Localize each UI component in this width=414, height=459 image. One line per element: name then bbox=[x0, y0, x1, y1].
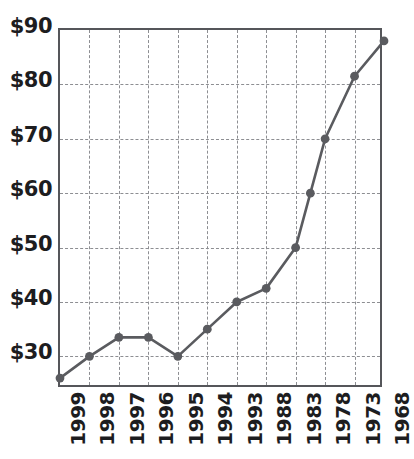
data-point bbox=[262, 284, 271, 293]
x-tick-label-1996: 1996 bbox=[154, 392, 178, 459]
x-tick-label-1983: 1983 bbox=[302, 392, 326, 459]
data-series bbox=[60, 30, 384, 389]
y-tick-label-90: $90 bbox=[0, 14, 52, 38]
y-tick-label-70: $70 bbox=[0, 123, 52, 147]
x-tick-label-1978: 1978 bbox=[331, 392, 355, 459]
y-tick-label-60: $60 bbox=[0, 177, 52, 201]
y-tick-label-50: $50 bbox=[0, 232, 52, 256]
data-point bbox=[173, 352, 182, 361]
x-tick-label-1994: 1994 bbox=[213, 392, 237, 459]
data-point bbox=[306, 189, 315, 198]
x-tick-label-1999: 1999 bbox=[66, 392, 90, 459]
y-tick-label-30: $30 bbox=[0, 340, 52, 364]
data-point bbox=[380, 36, 389, 45]
data-point bbox=[321, 134, 330, 143]
x-tick-label-1968: 1968 bbox=[390, 392, 414, 459]
data-point bbox=[291, 243, 300, 252]
x-tick-label-1973: 1973 bbox=[361, 392, 385, 459]
data-point bbox=[232, 298, 241, 307]
data-point bbox=[85, 352, 94, 361]
x-tick-label-1998: 1998 bbox=[95, 392, 119, 459]
x-tick-label-1997: 1997 bbox=[125, 392, 149, 459]
y-tick-label-40: $40 bbox=[0, 286, 52, 310]
x-tick-label-1993: 1993 bbox=[243, 392, 267, 459]
data-point bbox=[350, 72, 359, 81]
data-point bbox=[56, 374, 65, 383]
x-tick-label-1995: 1995 bbox=[184, 392, 208, 459]
x-tick-label-1988: 1988 bbox=[272, 392, 296, 459]
data-point bbox=[144, 333, 153, 342]
data-point bbox=[115, 333, 124, 342]
series-line-value bbox=[60, 41, 384, 378]
y-tick-label-80: $80 bbox=[0, 68, 52, 92]
data-point bbox=[203, 325, 212, 334]
plot-area bbox=[58, 28, 382, 387]
